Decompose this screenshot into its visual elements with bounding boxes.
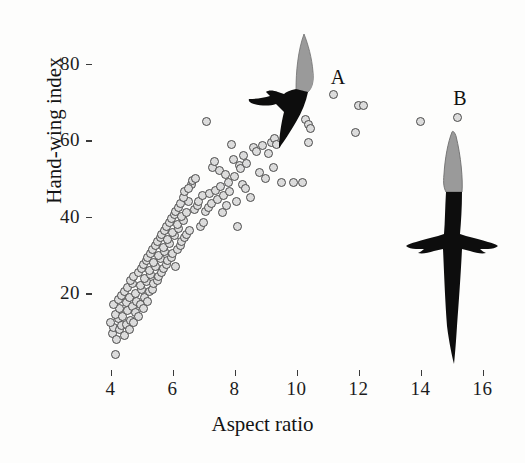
albatross-silhouette-icon [404,130,510,370]
x-tick-label: 16 [473,378,493,400]
x-tick-label: 6 [168,378,178,400]
x-tick-label: 8 [230,378,240,400]
swift-silhouette-icon [246,32,332,150]
x-tick-label: 10 [287,378,307,400]
x-tick-mark [111,370,112,376]
x-tick-label: 14 [411,378,431,400]
y-tick-mark [86,140,92,141]
annotation-label-b: B [453,87,466,110]
y-tick-mark [86,64,92,65]
annotation-label-a: A [331,66,345,89]
x-tick-label: 4 [106,378,116,400]
x-tick-mark [359,370,360,376]
x-axis-label: Aspect ratio [0,412,525,437]
y-tick-mark [86,293,92,294]
x-tick-mark [235,370,236,376]
x-tick-mark [173,370,174,376]
scatter-figure: A B 46810121416 20406080 Aspect ratio Ha… [0,0,525,463]
y-tick-mark [86,217,92,218]
x-tick-mark [421,370,422,376]
x-tick-mark [483,370,484,376]
y-axis-label: Hand-wing index [42,0,67,281]
x-tick-label: 12 [349,378,369,400]
y-tick-label: 20 [60,282,80,304]
x-tick-mark [297,370,298,376]
